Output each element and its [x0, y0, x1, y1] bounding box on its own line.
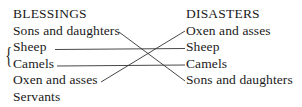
link-camels: [57, 65, 185, 66]
connection-lines: [0, 0, 302, 107]
link-sons-daughters: [119, 32, 185, 81]
link-oxen-asses: [101, 31, 185, 82]
link-sheep: [55, 49, 185, 50]
